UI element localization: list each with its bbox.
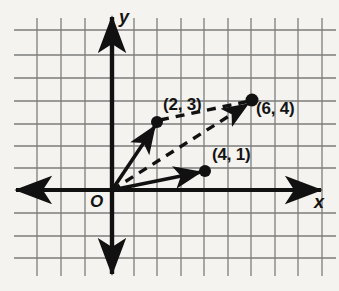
origin-label: O (90, 193, 103, 210)
coordinate-plane-figure: (2, 3) (4, 1) (6, 4) O y x (0, 0, 339, 291)
point-label-4-1: (4, 1) (212, 146, 250, 163)
y-axis-label: y (119, 8, 129, 26)
point-4-1-marker (199, 165, 211, 177)
point-2-3-marker (151, 116, 163, 128)
graph-canvas (0, 0, 339, 291)
grid-lines (14, 18, 336, 276)
x-axis-label: x (314, 193, 324, 211)
point-label-6-4: (6, 4) (256, 100, 294, 117)
point-label-2-3: (2, 3) (163, 96, 201, 113)
